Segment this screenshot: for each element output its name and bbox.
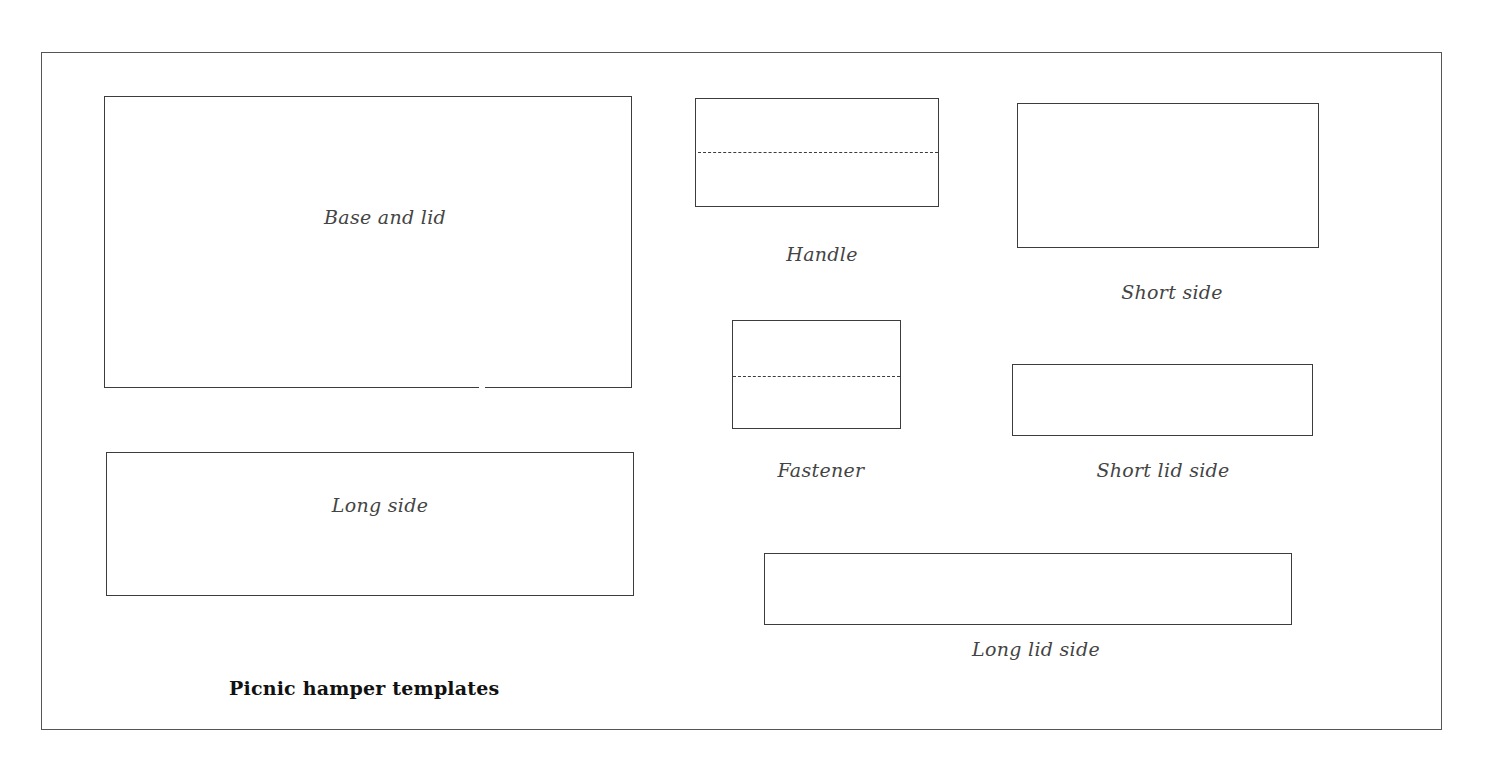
short-side-label: Short side: [1121, 281, 1223, 303]
fastener-fold-line: [733, 376, 900, 377]
handle-fold-line: [698, 152, 938, 153]
handle-template: [695, 98, 939, 207]
short-side-template: [1017, 103, 1319, 248]
long-side-label: Long side: [332, 494, 428, 516]
base-and-lid-template: [104, 96, 632, 388]
short-lid-side-template: [1012, 364, 1313, 436]
fastener-template: [732, 320, 901, 429]
long-lid-side-label: Long lid side: [972, 638, 1100, 660]
page-title: Picnic hamper templates: [229, 677, 499, 699]
long-side-template: [106, 452, 634, 596]
base-and-lid-edge-gap: [479, 386, 485, 389]
base-and-lid-label: Base and lid: [324, 206, 446, 228]
handle-label: Handle: [786, 243, 857, 265]
long-lid-side-template: [764, 553, 1292, 625]
fastener-label: Fastener: [778, 459, 865, 481]
short-lid-side-label: Short lid side: [1096, 459, 1229, 481]
